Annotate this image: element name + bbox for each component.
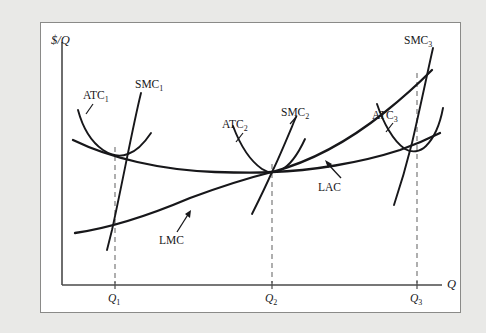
cost-curves-chart (0, 0, 486, 333)
tick-label-q2: Q2 (265, 293, 277, 305)
tick-label-q1: Q1 (108, 293, 120, 305)
tick-label-q3: Q3 (410, 293, 422, 305)
figure-root: $/Q Q ATC1 SMC1 ATC2 SMC2 ATC3 SMC3 LAC … (0, 0, 486, 333)
atc2-label: ATC2 (222, 119, 248, 131)
y-axis-label: $/Q (51, 34, 70, 47)
atc3-label: ATC3 (372, 110, 398, 122)
x-axis-label: Q (447, 278, 456, 291)
smc3-curve (394, 48, 433, 205)
lmc-leader-line (177, 213, 189, 232)
smc2-label: SMC2 (281, 107, 309, 119)
lmc-label: LMC (159, 235, 184, 247)
lac-label: LAC (318, 182, 341, 194)
atc1-label: ATC1 (83, 90, 109, 102)
atc1-leader-line (86, 104, 93, 114)
smc1-curve (107, 93, 141, 250)
smc3-label: SMC3 (404, 35, 432, 47)
smc1-label: SMC1 (135, 79, 163, 91)
